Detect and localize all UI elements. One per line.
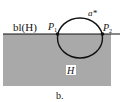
point-p1-label: P1 [47, 21, 57, 33]
point-p2-label: P2 [102, 22, 112, 34]
region-label: H [66, 65, 75, 76]
diagram-canvas: bl(H) P1 P2 a* H b. [0, 0, 120, 102]
boundary-label: bl(H) [13, 21, 37, 34]
curve-label: a* [88, 8, 98, 18]
half-plane-region [3, 34, 111, 86]
caption: b. [56, 90, 64, 101]
